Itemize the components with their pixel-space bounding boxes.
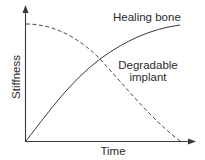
y-axis-arrow-icon bbox=[23, 5, 29, 13]
y-axis-label: Stiffness bbox=[10, 55, 22, 99]
y-axis bbox=[23, 5, 29, 142]
degradable-label-line2: implant bbox=[129, 71, 167, 83]
x-axis bbox=[25, 139, 196, 145]
healing-bone-label: Healing bone bbox=[113, 11, 181, 23]
x-axis-arrow-icon bbox=[188, 139, 196, 145]
stiffness-time-diagram: Healing bone Degradable implant Time Sti… bbox=[0, 0, 205, 160]
x-axis-label: Time bbox=[100, 145, 125, 157]
healing-bone-curve bbox=[26, 25, 180, 141]
degradable-label-line1: Degradable bbox=[118, 59, 177, 71]
